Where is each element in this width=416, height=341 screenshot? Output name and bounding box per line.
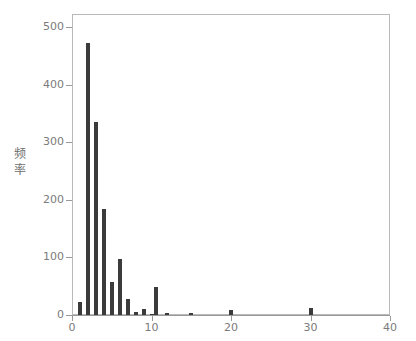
- histogram-bar: [189, 313, 193, 315]
- histogram-bar: [134, 312, 138, 315]
- y-tick-label: 500: [24, 21, 64, 32]
- histogram-bar: [78, 302, 82, 315]
- y-tick-label: 100: [24, 251, 64, 262]
- histogram-bar: [94, 122, 98, 315]
- histogram-bar: [142, 309, 146, 315]
- x-tick-label: 20: [216, 322, 246, 334]
- histogram-screenshot: 频 率 0100200300400500 010203040: [0, 0, 416, 341]
- histogram-bar: [165, 313, 169, 315]
- histogram-bar: [118, 259, 122, 315]
- histogram-bar: [154, 287, 158, 315]
- histogram-bar: [86, 43, 90, 315]
- y-axis-title: 频 率: [12, 146, 28, 178]
- y-tick-label: 300: [24, 136, 64, 147]
- x-tick-label: 40: [375, 322, 405, 334]
- y-axis-title-char-1: 频: [12, 146, 28, 162]
- histogram-bar: [110, 282, 114, 315]
- histogram-bar: [126, 299, 130, 315]
- x-tick-label: 10: [137, 322, 167, 334]
- histogram-bar: [309, 308, 313, 315]
- y-axis-title-char-2: 率: [12, 162, 28, 178]
- histogram-bar: [229, 310, 233, 315]
- x-tick-label: 30: [296, 322, 326, 334]
- plot-data-area: [72, 27, 390, 315]
- histogram-bar: [102, 209, 106, 315]
- x-tick-label: 0: [57, 322, 87, 334]
- histogram-bar: [150, 314, 154, 315]
- y-tick-label: 0: [24, 309, 64, 320]
- y-tick-label: 200: [24, 194, 64, 205]
- x-axis-line: [72, 315, 390, 316]
- y-tick-label: 400: [24, 79, 64, 90]
